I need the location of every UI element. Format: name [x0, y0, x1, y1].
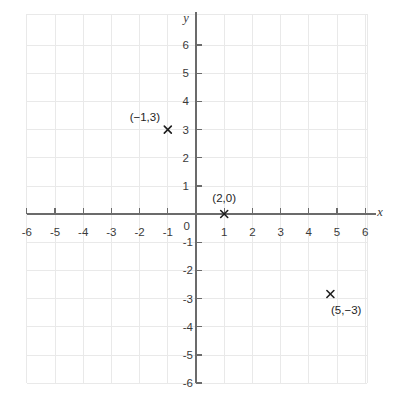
x-tick-label: -4	[78, 226, 89, 238]
x-tick-label: -5	[50, 226, 60, 238]
y-tick-label: -5	[183, 349, 193, 361]
y-tick-label: -3	[183, 293, 193, 305]
x-axis-label: x	[376, 205, 383, 219]
y-tick-label: 4	[183, 95, 190, 107]
figure-background	[0, 0, 398, 404]
x-tick-label: 5	[334, 226, 340, 238]
y-tick-label: 2	[183, 152, 189, 164]
y-tick-label: 5	[183, 67, 189, 79]
x-tick-label: 4	[306, 226, 313, 238]
origin-zero-label: 0	[184, 220, 190, 232]
x-tick-label: -3	[106, 226, 116, 238]
y-tick-label: -4	[183, 321, 194, 333]
y-axis-label: y	[181, 11, 189, 25]
y-tick-label: 3	[183, 124, 189, 136]
x-tick-label: 2	[249, 226, 255, 238]
coordinate-plane-figure: -6 -5 -4 -3 -2 -1 1 2 3 4 5 6 6 5 4 3 2 …	[0, 0, 398, 404]
y-tick-label: 1	[183, 180, 189, 192]
y-tick-label: -2	[183, 264, 193, 276]
x-tick-label: 6	[362, 226, 368, 238]
data-point-label: (−1,3)	[130, 111, 161, 123]
x-tick-label: 3	[277, 226, 283, 238]
x-tick-label: 1	[221, 226, 227, 238]
y-tick-label: 6	[183, 39, 189, 51]
x-tick-label: -1	[163, 226, 173, 238]
x-tick-label: -2	[134, 226, 144, 238]
data-point-label: (5,−3)	[331, 304, 362, 316]
y-tick-label: -1	[183, 236, 193, 248]
y-tick-label: -6	[183, 377, 193, 389]
x-tick-label: -6	[22, 226, 32, 238]
coordinate-plane-svg: -6 -5 -4 -3 -2 -1 1 2 3 4 5 6 6 5 4 3 2 …	[0, 0, 398, 404]
data-point-label: (2,0)	[212, 192, 236, 204]
